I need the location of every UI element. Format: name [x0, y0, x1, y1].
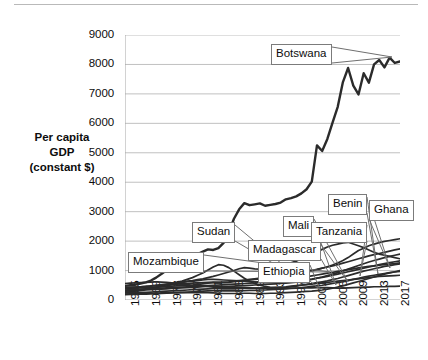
series-callout-label[interactable]: Botswana — [271, 44, 332, 65]
y-axis-title-line-3: (constant $) — [8, 160, 116, 175]
y-tick-label: 9000 — [56, 29, 114, 41]
y-tick-label: 1000 — [56, 265, 114, 277]
y-tick-label: 4000 — [56, 176, 114, 188]
series-callout-label[interactable]: Madagascar — [248, 240, 321, 261]
series-callout-label[interactable]: Ghana — [369, 200, 414, 221]
y-tick-label: 6000 — [56, 117, 114, 129]
y-tick-label: 8000 — [56, 58, 114, 70]
y-tick-label: 0 — [56, 294, 114, 306]
y-tick-label: 5000 — [56, 147, 114, 159]
top-divider-rule — [14, 4, 418, 5]
series-callout-label[interactable]: Mali — [283, 216, 314, 237]
series-callout-label[interactable]: Sudan — [192, 222, 235, 243]
series-callout-label[interactable]: Benin — [328, 194, 367, 215]
chart-figure: Per capita GDP (constant $) 010002000300… — [0, 0, 428, 360]
series-callout-label[interactable]: Tanzania — [311, 222, 367, 243]
x-tick-label: 2017 — [400, 272, 412, 306]
series-callout-label[interactable]: Mozambique — [128, 252, 204, 273]
y-tick-label: 7000 — [56, 88, 114, 100]
series-callout-label[interactable]: Ethiopia — [258, 262, 310, 283]
y-tick-label: 3000 — [56, 206, 114, 218]
y-tick-label: 2000 — [56, 235, 114, 247]
y-axis-title-line-1: Per capita — [8, 130, 116, 145]
